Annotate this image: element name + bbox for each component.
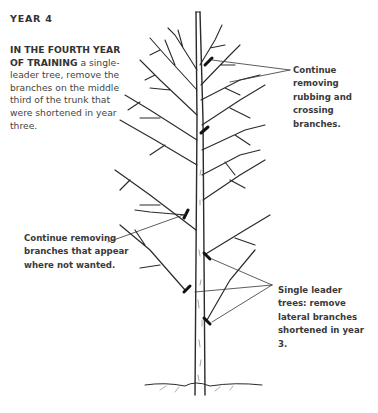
callout-lateral-branches: Single leader trees: remove lateral bran… — [278, 284, 373, 351]
tree-illustration — [0, 0, 378, 413]
callout-rubbing-branches: Continue removing rubbing and crossing b… — [293, 64, 378, 131]
callout-unwanted-branches: Continue removing branches that appear w… — [24, 232, 144, 272]
